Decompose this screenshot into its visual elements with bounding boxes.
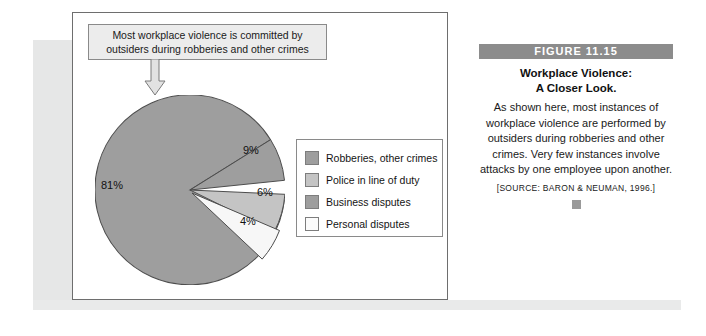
pie-label-business: 6% xyxy=(257,186,273,198)
callout-line-2: outsiders during robberies and other cri… xyxy=(106,42,309,56)
figure-number-bar: FIGURE 11.15 xyxy=(479,44,673,59)
chart-legend: Robberies, other crimes Police in line o… xyxy=(296,139,443,237)
legend-label-robberies: Robberies, other crimes xyxy=(326,152,437,164)
caption-end-marker xyxy=(572,200,581,209)
legend-swatch-business xyxy=(305,195,319,209)
pie-label-personal: 4% xyxy=(240,215,256,227)
legend-swatch-police xyxy=(305,173,319,187)
legend-item-robberies: Robberies, other crimes xyxy=(305,147,442,168)
legend-item-police: Police in line of duty xyxy=(305,169,442,190)
caption-title-line-2: A Closer Look. xyxy=(470,81,682,96)
caption-title: Workplace Violence: A Closer Look. xyxy=(470,66,682,95)
pie-label-police: 9% xyxy=(243,144,259,156)
caption-body: As shown here, most instances of workpla… xyxy=(470,100,682,178)
legend-swatch-robberies xyxy=(305,151,319,165)
caption-title-line-1: Workplace Violence: xyxy=(470,66,682,81)
caption-column: FIGURE 11.15 Workplace Violence: A Close… xyxy=(470,44,682,209)
caption-source: [SOURCE: BARON & NEUMAN, 1996.] xyxy=(470,183,682,193)
legend-label-police: Police in line of duty xyxy=(326,174,419,186)
callout-line-1: Most workplace violence is committed by xyxy=(112,28,302,42)
callout-annotation: Most workplace violence is committed by … xyxy=(88,24,327,60)
callout-arrow-icon xyxy=(143,59,167,97)
pie-label-robberies: 81% xyxy=(101,179,123,191)
legend-label-personal: Personal disputes xyxy=(326,218,409,230)
legend-swatch-personal xyxy=(305,217,319,231)
bottom-page-band xyxy=(33,300,681,310)
legend-label-business: Business disputes xyxy=(326,196,411,208)
legend-item-personal: Personal disputes xyxy=(305,213,442,234)
legend-item-business: Business disputes xyxy=(305,191,442,212)
